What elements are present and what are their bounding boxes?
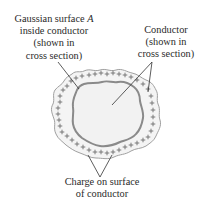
label-conductor-line3: cross section) — [128, 48, 204, 60]
label-conductor-line2: (shown in — [128, 36, 204, 48]
label-gaussian-line3: (shown in — [4, 37, 104, 49]
label-gaussian-symbol: A — [87, 13, 93, 24]
label-conductor-line1: Conductor — [128, 24, 204, 36]
label-gaussian-line1: Gaussian surface A — [4, 13, 104, 25]
label-surface-charge: Charge on surface of conductor — [52, 176, 152, 200]
label-gaussian-line4: cross section) — [4, 50, 104, 62]
label-gaussian-surface: Gaussian surface A inside conductor (sho… — [4, 13, 104, 62]
label-gaussian-line2: inside conductor — [4, 25, 104, 37]
label-conductor: Conductor (shown in cross section) — [128, 24, 204, 61]
label-charge-line2: of conductor — [52, 188, 152, 200]
label-gaussian-text: Gaussian surface — [15, 13, 88, 24]
gaussian-surface — [73, 81, 143, 146]
label-charge-line1: Charge on surface — [52, 176, 152, 188]
